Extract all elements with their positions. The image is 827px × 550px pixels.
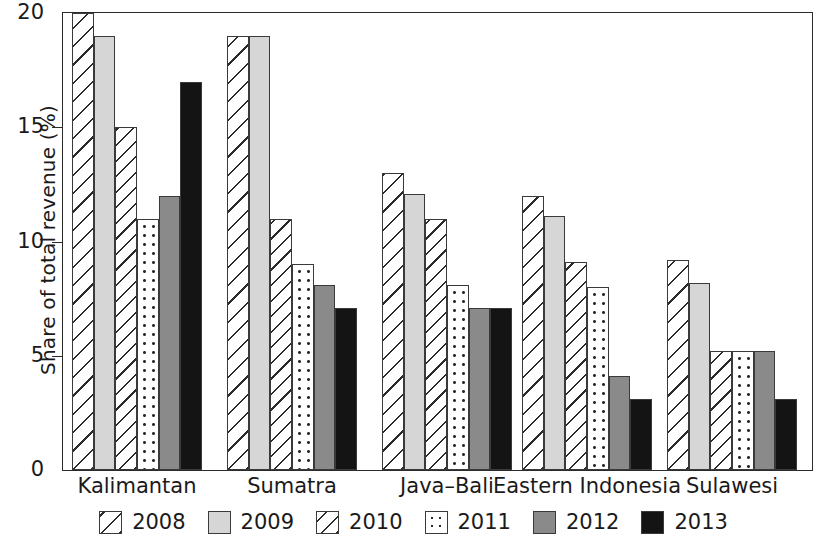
legend-swatch-icon [533,511,556,534]
bar [137,219,159,470]
legend-item-2012[interactable]: 2012 [533,511,619,534]
bar [587,287,609,470]
bar [94,36,116,470]
bar [270,219,292,470]
legend-item-2011[interactable]: 2011 [425,511,511,534]
bar-group [227,13,357,470]
legend-item-2010[interactable]: 2010 [316,511,402,534]
bar [314,285,336,470]
legend-item-2008[interactable]: 2008 [99,511,185,534]
bar-group [382,13,512,470]
y-axis-tick-label-20: 20 [0,2,44,23]
bar-group [667,13,797,470]
bar [754,351,776,470]
bars-area [63,13,811,470]
legend-label: 2008 [132,512,185,533]
bar [732,351,754,470]
bar-group [522,13,652,470]
chart-root: Share of total revenue (%) 05101520 Kali… [0,0,827,550]
y-axis-tick-label-5: 5 [0,345,44,366]
bar [425,219,447,470]
bar [159,196,181,470]
bar [335,308,357,470]
legend-label: 2013 [674,512,727,533]
bar [667,260,689,470]
bar [115,127,137,470]
bar-group [72,13,202,470]
bar [382,173,404,470]
bar [469,308,491,470]
bar [249,36,271,470]
bar [180,82,202,470]
legend-swatch-icon [641,511,664,534]
bar [565,262,587,470]
bar [292,264,314,470]
legend-label: 2009 [241,512,294,533]
legend-label: 2012 [566,512,619,533]
y-axis-tick-label-15: 15 [0,116,44,137]
bar [630,399,652,470]
legend-item-2009[interactable]: 2009 [208,511,294,534]
bar [490,308,512,470]
legend-swatch-icon [425,511,448,534]
x-axis-label-4: Sulawesi [637,474,827,498]
bar [447,285,469,470]
bar [72,13,94,470]
bar [689,283,711,470]
bar [710,351,732,470]
legend-swatch-icon [208,511,231,534]
y-axis-tick-label-10: 10 [0,231,44,252]
legend-swatch-icon [316,511,339,534]
y-axis-tick-label-0: 0 [0,459,44,480]
legend-label: 2010 [349,512,402,533]
legend-label: 2011 [458,512,511,533]
bar [775,399,797,470]
legend-swatch-icon [99,511,122,534]
legend-item-2013[interactable]: 2013 [641,511,727,534]
bar [227,36,249,470]
bar [522,196,544,470]
bar [544,216,566,470]
x-axis-category-labels: KalimantanSumatraJava–BaliEastern Indone… [63,474,811,508]
bar [609,376,631,470]
bar [404,194,426,470]
chart-legend: 200820092010201120122013 [0,511,827,534]
